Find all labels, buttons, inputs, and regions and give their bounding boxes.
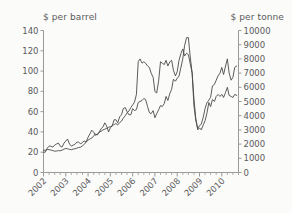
right-tick-label: 1000 bbox=[244, 153, 266, 163]
x-tick-label: 2004 bbox=[71, 176, 93, 198]
right-axis-ticks: 1000090008000700060005000400030002000100… bbox=[239, 26, 271, 178]
series-line-1 bbox=[44, 38, 237, 153]
left-tick-label: 60 bbox=[28, 107, 39, 117]
x-tick-label: 2005 bbox=[93, 176, 115, 198]
left-axis-ticks: 140120100806040200 bbox=[22, 26, 43, 178]
data-series-group bbox=[44, 38, 237, 153]
axis-lines bbox=[44, 31, 239, 173]
chart-container: $ per barrel $ per tonne 140120100806040… bbox=[0, 0, 292, 213]
right-tick-label: 5000 bbox=[244, 97, 266, 107]
right-tick-label: 0 bbox=[244, 168, 249, 178]
left-tick-label: 120 bbox=[22, 46, 38, 56]
left-tick-label: 100 bbox=[22, 66, 38, 76]
x-tick-label: 2008 bbox=[160, 176, 182, 198]
left-tick-label: 40 bbox=[28, 127, 39, 137]
x-tick-label: 2006 bbox=[115, 176, 137, 198]
x-tick-label: 2009 bbox=[182, 176, 204, 198]
right-tick-label: 7000 bbox=[244, 68, 266, 78]
right-tick-label: 6000 bbox=[244, 82, 266, 92]
left-tick-label: 0 bbox=[33, 168, 38, 178]
right-tick-label: 2000 bbox=[244, 139, 266, 149]
right-tick-label: 3000 bbox=[244, 125, 266, 135]
right-tick-label: 10000 bbox=[244, 26, 271, 36]
right-tick-label: 8000 bbox=[244, 54, 266, 64]
series-line-2 bbox=[44, 49, 237, 151]
x-tick-label: 2002 bbox=[26, 176, 48, 198]
line-chart-plot: 140120100806040200 100009000800070006000… bbox=[0, 0, 292, 213]
x-tick-label: 2003 bbox=[48, 176, 70, 198]
right-tick-label: 9000 bbox=[244, 40, 266, 50]
x-tick-label: 2007 bbox=[137, 176, 159, 198]
right-tick-label: 4000 bbox=[244, 111, 266, 121]
left-tick-label: 20 bbox=[28, 147, 39, 157]
x-axis-ticks: 200220032004200520062007200820092010 bbox=[26, 173, 238, 199]
left-tick-label: 140 bbox=[22, 26, 38, 36]
x-tick-label: 2010 bbox=[204, 176, 226, 198]
left-tick-label: 80 bbox=[28, 86, 39, 96]
